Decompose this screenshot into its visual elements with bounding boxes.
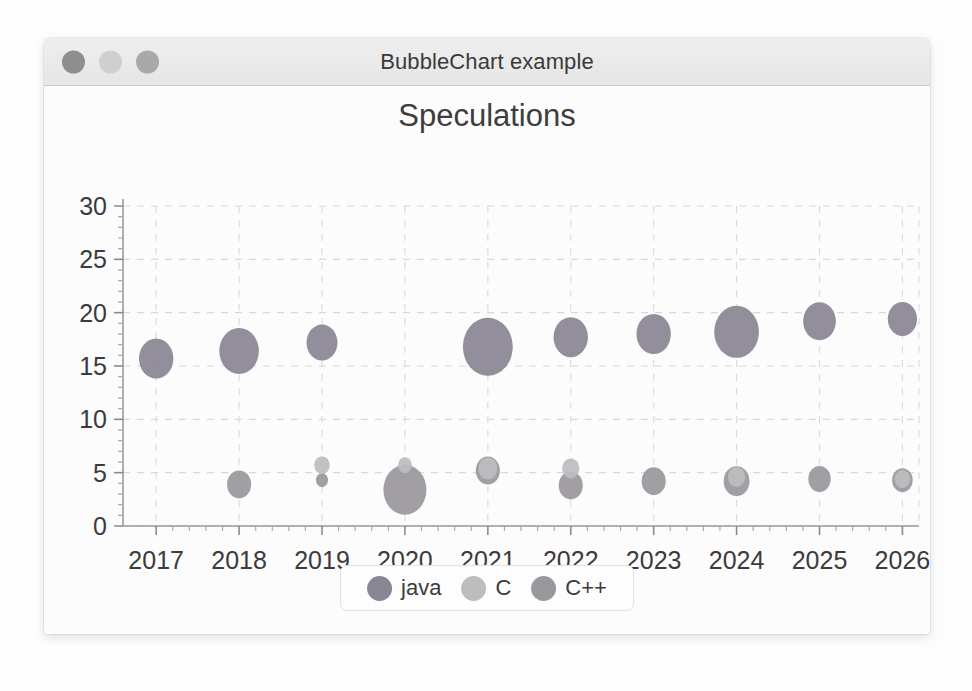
bubble-point[interactable] xyxy=(808,466,830,492)
legend-item[interactable]: java xyxy=(367,575,441,601)
legend-item[interactable]: C xyxy=(461,575,511,601)
y-tick-label: 10 xyxy=(79,405,107,433)
bubble-point[interactable] xyxy=(728,467,745,487)
bubble-point[interactable] xyxy=(398,457,412,473)
minimize-button-icon[interactable] xyxy=(99,50,122,73)
x-tick-label: 2024 xyxy=(709,546,765,574)
bubble-point[interactable] xyxy=(895,470,910,488)
application-window: BubbleChart example Speculations 0510152… xyxy=(44,38,930,634)
bubble-point[interactable] xyxy=(316,473,328,487)
chart-bubbles xyxy=(139,302,917,515)
legend-swatch-c xyxy=(461,576,486,601)
window-controls xyxy=(62,50,159,73)
legend-swatch-cpp xyxy=(531,576,556,601)
y-tick-label: 15 xyxy=(79,352,107,380)
bubble-point[interactable] xyxy=(463,318,513,376)
bubble-point[interactable] xyxy=(554,317,588,357)
x-tick-label: 2017 xyxy=(128,546,184,574)
y-tick-label: 0 xyxy=(93,512,107,540)
bubble-point[interactable] xyxy=(314,456,329,474)
chart-legend: java C C++ xyxy=(340,565,634,611)
bubble-point[interactable] xyxy=(642,467,666,495)
x-tick-label: 2023 xyxy=(626,546,682,574)
bubble-point[interactable] xyxy=(803,302,836,340)
legend-item[interactable]: C++ xyxy=(531,575,607,601)
y-tick-label: 20 xyxy=(79,299,107,327)
y-tick-label: 25 xyxy=(79,245,107,273)
bubble-point[interactable] xyxy=(307,325,338,361)
x-tick-label: 2026 xyxy=(875,546,930,574)
bubble-chart: 051015202530 201720182019202020212022202… xyxy=(44,86,930,634)
bubble-point[interactable] xyxy=(714,306,759,358)
maximize-button-icon[interactable] xyxy=(136,50,159,73)
desktop-background: BubbleChart example Speculations 0510152… xyxy=(0,0,972,691)
bubble-point[interactable] xyxy=(636,314,670,354)
x-tick-label: 2018 xyxy=(211,546,267,574)
bubble-point[interactable] xyxy=(562,458,579,478)
y-tick-label: 5 xyxy=(93,459,107,487)
bubble-point[interactable] xyxy=(219,328,259,374)
y-axis-tick-labels: 051015202530 xyxy=(79,192,107,540)
y-tick-label: 30 xyxy=(79,192,107,220)
bubble-point[interactable] xyxy=(227,470,251,498)
legend-label: C xyxy=(495,575,511,601)
legend-label: java xyxy=(401,575,441,601)
window-titlebar: BubbleChart example xyxy=(44,38,930,86)
bubble-point[interactable] xyxy=(139,339,173,379)
x-tick-label: 2025 xyxy=(792,546,848,574)
close-button-icon[interactable] xyxy=(62,50,85,73)
window-content: Speculations 051015202530 20172018201920… xyxy=(44,86,930,634)
bubble-point[interactable] xyxy=(888,302,917,336)
window-title: BubbleChart example xyxy=(44,49,930,75)
bubble-point[interactable] xyxy=(478,457,497,479)
legend-label: C++ xyxy=(565,575,607,601)
legend-swatch-java xyxy=(367,576,392,601)
